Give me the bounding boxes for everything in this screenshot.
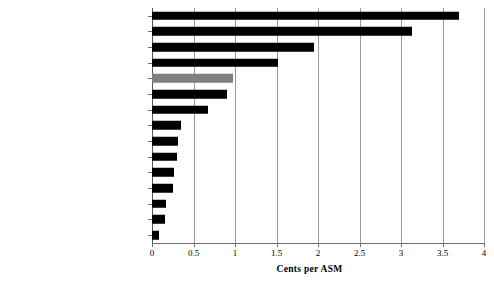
chart-row: LABOR bbox=[152, 24, 484, 40]
bar bbox=[152, 215, 165, 224]
bar bbox=[152, 153, 177, 162]
chart-row: AVERAGE bbox=[152, 71, 484, 87]
x-tick-label: 3.5 bbox=[423, 247, 463, 260]
bar bbox=[152, 12, 459, 21]
bar bbox=[152, 121, 181, 130]
bar bbox=[152, 74, 233, 83]
bar bbox=[152, 106, 208, 115]
bar bbox=[152, 43, 314, 52]
chart-row: PAX. COMMISSIONS bbox=[152, 165, 484, 181]
x-tick-label: 1 bbox=[215, 247, 255, 260]
bar bbox=[152, 27, 412, 36]
bar bbox=[152, 59, 278, 68]
bar bbox=[152, 168, 174, 177]
x-tick-label: 2 bbox=[298, 247, 338, 260]
plot-area: FUELLABORTRANSPORT-RELATED EXPENSESOTHER… bbox=[152, 8, 484, 243]
chart-row: LANDING FEES bbox=[152, 118, 484, 134]
bar bbox=[152, 231, 159, 240]
bar bbox=[152, 200, 166, 209]
x-tick-label: 0 bbox=[132, 247, 172, 260]
chart-row: FUEL bbox=[152, 8, 484, 24]
bar bbox=[152, 90, 227, 99]
chart-row: NON-AIRCRAFT OWNERSHIP bbox=[152, 102, 484, 118]
chart-row: UTILITIES bbox=[152, 196, 484, 212]
x-tick-label: 4 bbox=[464, 247, 494, 260]
chart-row: INSURANCE bbox=[152, 227, 484, 243]
gridline-4 bbox=[484, 8, 485, 243]
chart-row: OTHER OP. EXPENSES bbox=[152, 55, 484, 71]
chart-row: PROMOTION bbox=[152, 212, 484, 228]
x-tick-label: 3 bbox=[381, 247, 421, 260]
chart-row: FOOD & BEVERAGE bbox=[152, 149, 484, 165]
x-tick-label: 0.5 bbox=[174, 247, 214, 260]
bar bbox=[152, 184, 173, 193]
chart-row: TRANSPORT-RELATED EXPENSES bbox=[152, 39, 484, 55]
bar-chart: FUELLABORTRANSPORT-RELATED EXPENSESOTHER… bbox=[0, 0, 494, 290]
bar bbox=[152, 137, 178, 146]
x-axis-title: Cents per ASM bbox=[0, 264, 494, 274]
x-tick-label: 1.5 bbox=[257, 247, 297, 260]
chart-row: AIRCRAFT OWNERSHIP bbox=[152, 86, 484, 102]
chart-row: COMMUNICATION bbox=[152, 180, 484, 196]
chart-row: MAINTENANCE METERIAL bbox=[152, 133, 484, 149]
x-tick-label: 2.5 bbox=[340, 247, 380, 260]
